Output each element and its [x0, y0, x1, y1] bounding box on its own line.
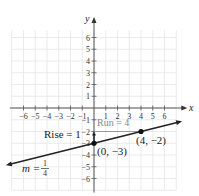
- x-tick-label: 4: [139, 112, 143, 121]
- rise-arrow-icon: [92, 132, 96, 136]
- x-tick-label: −3: [54, 112, 63, 121]
- slope-label: m =: [22, 162, 40, 174]
- coordinate-plane: x y −6−5−4−3−2−1123456654321−1−2−3−4−5−6…: [0, 0, 199, 196]
- line-arrow-left-icon: [6, 161, 12, 166]
- point-label: (4, −2): [136, 134, 166, 147]
- y-tick-label: −4: [81, 151, 90, 160]
- x-tick-label: −6: [19, 112, 28, 121]
- x-tick-label: 6: [163, 112, 167, 121]
- y-tick-label: −1: [81, 116, 90, 125]
- x-axis-label: x: [188, 102, 194, 113]
- slope-denominator: 4: [43, 169, 47, 178]
- slope-numerator: 1: [43, 159, 47, 168]
- point-label: (0, −3): [97, 145, 127, 158]
- point-marker: [91, 141, 96, 146]
- line-arrow-right-icon: [176, 120, 182, 125]
- y-tick-label: 6: [86, 34, 90, 43]
- y-tick-label: 2: [86, 81, 90, 90]
- y-tick-label: 1: [86, 92, 90, 101]
- y-tick-label: −2: [81, 128, 90, 137]
- x-tick-label: −5: [31, 112, 40, 121]
- x-tick-label: −4: [43, 112, 52, 121]
- x-axis-arrow-icon: [181, 106, 187, 111]
- y-tick-label: −5: [81, 163, 90, 172]
- run-label: Run = 4: [97, 117, 129, 128]
- y-axis-label: y: [84, 13, 90, 24]
- rise-label: Rise = 1: [44, 128, 81, 140]
- x-tick-label: −2: [66, 112, 75, 121]
- y-tick-label: 4: [86, 57, 90, 66]
- y-tick-label: 5: [86, 45, 90, 54]
- y-tick-label: −6: [81, 175, 90, 184]
- y-axis-arrow-icon: [92, 17, 97, 23]
- y-tick-label: 3: [86, 69, 90, 78]
- x-tick-label: 5: [151, 112, 155, 121]
